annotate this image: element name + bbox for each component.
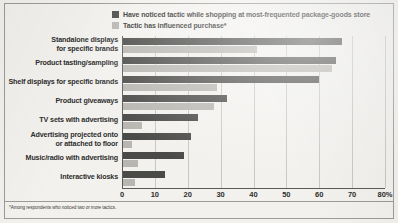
bar-row [122, 36, 385, 55]
x-tick-label: 70 [348, 190, 356, 199]
bar-row [122, 112, 385, 131]
bar-noticed [122, 133, 191, 140]
bar-influenced [122, 122, 142, 129]
legend-label-influenced: Tactic has influenced purchase* [123, 21, 226, 30]
category-label-line: TV sets with advertising [8, 116, 118, 124]
x-axis-line [122, 188, 385, 189]
legend-label-noticed: Have noticed tactic while shopping at mo… [123, 10, 370, 19]
bar-row [122, 93, 385, 112]
category-label: Advertising projected ontoor attached to… [8, 131, 118, 148]
category-label: Product tasting/sampling [8, 59, 118, 67]
bar-influenced [122, 46, 257, 53]
category-label: Shelf displays for specific brands [8, 78, 118, 86]
category-label: Product giveaways [8, 97, 118, 105]
category-label-line: Shelf displays for specific brands [8, 78, 118, 86]
x-tick-label: 20 [184, 190, 192, 199]
x-tick-label: 40 [249, 190, 257, 199]
bar-noticed [122, 114, 198, 121]
bar-influenced [122, 103, 214, 110]
x-tick-label: 50 [282, 190, 290, 199]
x-tick-label: 30 [216, 190, 224, 199]
category-label-line: Product giveaways [8, 97, 118, 105]
category-axis-labels: Standalone displaysfor specific brandsPr… [8, 36, 118, 188]
category-label-line: Music/radio with advertising [8, 154, 118, 162]
bar-noticed [122, 38, 342, 45]
bar-row [122, 74, 385, 93]
bar-row [122, 55, 385, 74]
y-axis-line [122, 36, 123, 188]
legend-swatch-influenced [112, 22, 119, 29]
footnote-divider [5, 201, 393, 202]
category-label: Standalone displaysfor specific brands [8, 36, 118, 53]
category-label: TV sets with advertising [8, 116, 118, 124]
bar-row [122, 150, 385, 169]
x-tick-label: 60 [315, 190, 323, 199]
category-label-line: Product tasting/sampling [8, 59, 118, 67]
bar-noticed [122, 171, 165, 178]
bar-influenced [122, 141, 132, 148]
chart-legend: Have noticed tactic while shopping at mo… [112, 10, 370, 32]
chart-figure: Have noticed tactic while shopping at mo… [0, 0, 398, 223]
legend-item-noticed: Have noticed tactic while shopping at mo… [112, 10, 370, 19]
legend-item-influenced: Tactic has influenced purchase* [112, 21, 370, 30]
bar-noticed [122, 57, 336, 64]
bar-row [122, 169, 385, 188]
bar-influenced [122, 65, 332, 72]
bar-influenced [122, 179, 135, 186]
bar-noticed [122, 76, 319, 83]
bar-rows [122, 36, 385, 188]
x-tick-label: 80% [377, 190, 392, 199]
gridline-80 [385, 36, 386, 188]
category-label-line: Interactive kiosks [8, 173, 118, 181]
plot-area [122, 36, 385, 188]
category-label-line: for specific brands [8, 45, 118, 53]
bar-noticed [122, 95, 227, 102]
category-label: Interactive kiosks [8, 173, 118, 181]
x-tick-label: 0 [120, 190, 124, 199]
bar-row [122, 131, 385, 150]
category-label: Music/radio with advertising [8, 154, 118, 162]
x-tick-label: 10 [151, 190, 159, 199]
bar-influenced [122, 84, 217, 91]
bar-noticed [122, 152, 184, 159]
category-label-line: or attached to floor [8, 140, 118, 148]
footnote-text: *Among respondents who noticed two or mo… [9, 205, 116, 210]
legend-swatch-noticed [112, 11, 119, 18]
bar-influenced [122, 160, 138, 167]
